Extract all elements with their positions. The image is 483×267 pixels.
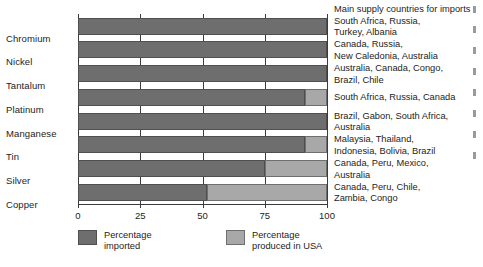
category-label-column: ChromiumNickelTantalumPlatinumManganeseT… <box>6 18 76 202</box>
bar-segment-manganese-imported <box>78 113 327 130</box>
bar-segment-copper-imported <box>78 184 207 201</box>
x-tick-50 <box>203 204 204 208</box>
supply-countries-tantalum: Australia, Canada, Congo, Brazil, Chile <box>334 63 479 86</box>
cropped-text-fragment <box>473 152 476 159</box>
x-tick-75 <box>265 204 266 208</box>
bar-segment-chromium-imported <box>78 18 327 35</box>
category-label-manganese: Manganese <box>6 128 76 139</box>
supply-countries-manganese: Brazil, Gabon, South Africa, Australia <box>334 111 479 134</box>
bar-segment-platinum-domestic <box>305 89 327 106</box>
bar-segment-copper-domestic <box>207 184 327 201</box>
x-tick-0 <box>78 204 79 208</box>
bar-segment-silver-domestic <box>265 160 327 177</box>
bar-row <box>78 41 327 58</box>
bar-row <box>78 65 327 82</box>
x-tick-label-100: 100 <box>319 210 335 221</box>
stacked-bar-chart-figure: ChromiumNickelTantalumPlatinumManganeseT… <box>0 0 483 267</box>
bar-row <box>78 89 327 106</box>
legend-item-imported: Percentage imported <box>78 230 152 252</box>
x-tick-25 <box>140 204 141 208</box>
legend-swatch-imported <box>78 230 97 245</box>
supply-countries-header: Main supply countries for imports <box>334 4 474 15</box>
cropped-text-fragment <box>473 110 476 117</box>
x-tick-100 <box>327 204 328 208</box>
bar-row <box>78 184 327 201</box>
bar-segment-tantalum-imported <box>78 65 327 82</box>
bar-segment-platinum-imported <box>78 89 305 106</box>
supply-countries-chromium: South Africa, Russia, Turkey, Albania <box>334 16 479 39</box>
bar-row <box>78 113 327 130</box>
bar-row <box>78 18 327 35</box>
bar-row <box>78 160 327 177</box>
cropped-text-fragment <box>473 47 476 54</box>
bar-segment-nickel-imported <box>78 41 327 58</box>
plot-area <box>78 14 327 204</box>
gridline-100 <box>327 14 328 204</box>
legend-label-imported: Percentage imported <box>104 230 152 252</box>
x-tick-label-50: 50 <box>197 210 208 221</box>
legend-label-domestic: Percentage produced in USA <box>252 230 322 252</box>
bar-row <box>78 136 327 153</box>
category-label-tantalum: Tantalum <box>6 80 76 91</box>
x-axis: 0255075100 <box>78 204 327 224</box>
legend-item-domestic: Percentage produced in USA <box>226 230 322 252</box>
cropped-text-fragment <box>473 6 476 13</box>
bar-segment-tin-domestic <box>305 136 327 153</box>
x-tick-label-25: 25 <box>135 210 146 221</box>
cropped-text-fragment <box>473 26 476 33</box>
supply-countries-platinum: South Africa, Russia, Canada <box>334 92 479 103</box>
supply-countries-silver: Canada, Peru, Mexico, Australia <box>334 158 479 181</box>
cropped-text-fragment <box>473 131 476 138</box>
supply-countries-tin: Malaysia, Thailand, Indonesia, Bolivia, … <box>334 134 479 157</box>
category-label-chromium: Chromium <box>6 33 76 44</box>
category-label-copper: Copper <box>6 199 76 210</box>
category-label-nickel: Nickel <box>6 56 76 67</box>
legend-swatch-domestic <box>226 230 245 245</box>
supply-countries-copper: Canada, Peru, Chile, Zambia, Congo <box>334 182 479 205</box>
category-label-silver: Silver <box>6 175 76 186</box>
chart-legend: Percentage importedPercentage produced i… <box>78 230 378 260</box>
cropped-neighbor-column <box>472 0 483 200</box>
cropped-text-fragment <box>473 68 476 75</box>
bar-segment-tin-imported <box>78 136 305 153</box>
category-label-tin: Tin <box>6 151 76 162</box>
x-tick-label-75: 75 <box>259 210 270 221</box>
supply-countries-column: Main supply countries for imports South … <box>334 4 474 15</box>
category-label-platinum: Platinum <box>6 104 76 115</box>
cropped-text-fragment <box>473 89 476 96</box>
bar-segment-silver-imported <box>78 160 265 177</box>
supply-countries-nickel: Canada, Russia, New Caledonia, Australia <box>334 39 479 62</box>
x-tick-label-0: 0 <box>75 210 80 221</box>
